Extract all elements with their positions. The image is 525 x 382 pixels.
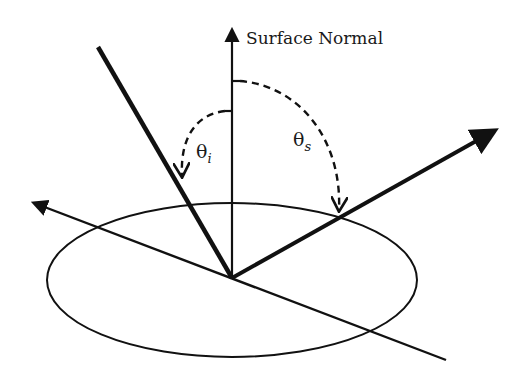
scattering-geometry-diagram: Surface Normal θi θs [0,0,525,382]
theta-s-label: θs [293,128,311,154]
incident-ray [98,47,232,278]
theta-i-label: θi [196,140,212,166]
surface-normal-label: Surface Normal [246,28,383,48]
theta-s-angle-arc [240,81,339,210]
surface-plane-axis [34,203,446,360]
